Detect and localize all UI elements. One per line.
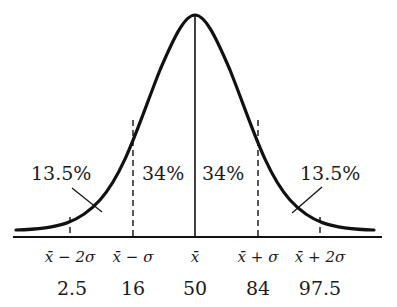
right-center-label: 34% bbox=[202, 162, 244, 184]
percentile-84: 84 bbox=[246, 277, 270, 299]
left-center-label: 34% bbox=[142, 162, 184, 184]
axis-symbol-plus-1sigma: x̄ + σ bbox=[238, 248, 280, 266]
percentile-50: 50 bbox=[183, 277, 207, 299]
axis-symbol-minus-1sigma: x̄ − σ bbox=[113, 248, 155, 266]
left-tail-pointer bbox=[72, 188, 102, 212]
percentile-97-5: 97.5 bbox=[299, 277, 341, 299]
right-tail-label: 13.5% bbox=[300, 162, 360, 184]
normal-curve-diagram: 13.5% 34% 34% 13.5% x̄ − 2σ x̄ − σ x̄ x̄… bbox=[0, 0, 397, 307]
axis-symbol-minus-2sigma: x̄ − 2σ bbox=[45, 248, 96, 266]
percentile-2-5: 2.5 bbox=[57, 277, 87, 299]
left-tail-label: 13.5% bbox=[31, 162, 91, 184]
axis-symbol-mean: x̄ bbox=[191, 248, 200, 266]
percentile-16: 16 bbox=[121, 277, 145, 299]
right-tail-pointer bbox=[292, 187, 322, 213]
axis-symbol-plus-2sigma: x̄ + 2σ bbox=[295, 248, 346, 266]
